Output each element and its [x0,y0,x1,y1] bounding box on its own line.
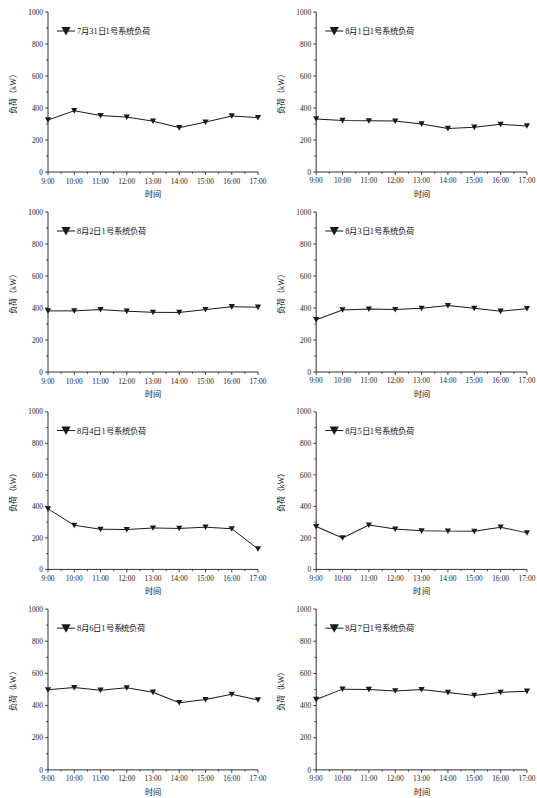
x-tick-label: 11:00 [92,774,109,783]
x-tick-label: 10:00 [66,377,83,386]
x-tick-label: 15:00 [197,574,214,583]
x-tick-label: 12:00 [118,774,135,783]
x-tick-label: 12:00 [387,574,404,583]
x-tick-label: 10:00 [334,574,351,583]
y-tick-label: 400 [32,701,43,710]
legend-label: 8月4日1号系统负荷 [77,426,146,436]
x-tick-label: 11:00 [92,377,109,386]
x-tick-label: 11:00 [361,774,378,783]
x-tick-label: 16:00 [492,774,509,783]
chart-grid: 020040060080010009:0010:0011:0012:0013:0… [0,0,537,798]
chart-panel-7: 020040060080010009:0010:0011:0012:0013:0… [0,597,268,798]
y-tick-label: 800 [32,240,43,249]
y-tick-label: 0 [39,565,43,574]
x-tick-label: 14:00 [439,774,456,783]
x-tick-label: 16:00 [492,574,509,583]
x-tick-label: 17:00 [250,177,267,186]
x-tick-label: 16:00 [223,774,240,783]
chart-svg-6: 020040060080010009:0010:0011:0012:0013:0… [268,400,537,597]
x-tick-label: 11:00 [361,377,378,386]
x-tick-label: 15:00 [197,177,214,186]
x-tick-label: 9:00 [310,377,323,386]
y-tick-label: 0 [307,368,311,377]
data-point-marker [45,117,51,123]
x-tick-label: 13:00 [413,574,430,583]
x-tick-label: 16:00 [492,377,509,386]
y-tick-label: 0 [307,168,311,177]
y-tick-label: 800 [300,40,311,49]
x-axis-title: 时间 [145,389,161,399]
y-tick-label: 600 [300,471,311,480]
y-tick-label: 200 [300,336,311,345]
chart-svg-2: 020040060080010009:0010:0011:0012:0013:0… [268,0,537,200]
y-tick-label: 600 [300,669,311,678]
x-tick-label: 10:00 [66,774,83,783]
x-tick-label: 17:00 [519,377,536,386]
y-tick-label: 800 [300,439,311,448]
x-axis-title: 时间 [413,586,429,596]
chart-panel-5: 020040060080010009:0010:0011:0012:0013:0… [0,400,268,597]
y-axis-title: 负荷（kW） [8,667,18,711]
y-tick-label: 800 [300,637,311,646]
y-tick-label: 0 [307,565,311,574]
y-tick-label: 1000 [28,208,43,217]
x-tick-label: 16:00 [223,177,240,186]
x-tick-label: 10:00 [66,177,83,186]
x-tick-label: 13:00 [145,574,162,583]
x-tick-label: 10:00 [334,177,351,186]
y-axis-title: 负荷（kW） [276,668,286,712]
x-tick-label: 14:00 [171,774,188,783]
y-tick-label: 200 [300,136,311,145]
y-tick-label: 600 [300,72,311,81]
x-tick-label: 17:00 [250,377,267,386]
x-tick-label: 9:00 [310,177,323,186]
x-tick-label: 15:00 [466,574,483,583]
x-tick-label: 9:00 [41,177,54,186]
y-tick-label: 400 [300,502,311,511]
data-point-marker [255,546,261,551]
data-point-marker [339,535,345,540]
x-tick-label: 9:00 [41,774,54,783]
x-tick-label: 17:00 [519,177,536,186]
x-tick-label: 14:00 [439,377,456,386]
y-axis-title: 负荷（kW） [276,469,286,512]
x-tick-label: 10:00 [66,574,83,583]
legend-label: 8月7日1号系统负荷 [345,623,414,633]
x-axis-title: 时间 [145,586,161,596]
y-tick-label: 0 [39,766,43,775]
x-tick-label: 11:00 [361,177,378,186]
chart-svg-5: 020040060080010009:0010:0011:0012:0013:0… [0,400,268,597]
y-tick-label: 400 [32,304,43,313]
x-tick-label: 15:00 [466,377,483,386]
x-tick-label: 12:00 [387,774,404,783]
y-tick-label: 1000 [28,8,43,17]
y-tick-label: 1000 [28,408,43,417]
x-tick-label: 13:00 [145,177,162,186]
y-tick-label: 200 [300,733,311,742]
y-tick-label: 400 [32,502,43,511]
x-tick-label: 13:00 [413,177,430,186]
y-tick-label: 200 [32,136,43,145]
x-tick-label: 12:00 [118,574,135,583]
y-tick-label: 400 [300,104,311,113]
x-axis-title: 时间 [414,787,430,797]
chart-panel-3: 020040060080010009:0010:0011:0012:0013:0… [0,200,268,400]
x-tick-label: 12:00 [118,377,135,386]
y-tick-label: 600 [32,272,43,281]
y-tick-label: 0 [39,168,43,177]
data-point-marker [176,125,182,131]
data-point-marker [313,524,319,529]
y-tick-label: 200 [32,534,43,543]
x-tick-label: 17:00 [519,774,536,783]
x-tick-label: 10:00 [334,774,351,783]
x-tick-label: 11:00 [361,574,378,583]
x-tick-label: 12:00 [387,177,404,186]
chart-panel-1: 020040060080010009:0010:0011:0012:0013:0… [0,0,268,200]
y-tick-label: 0 [307,766,311,775]
y-tick-label: 400 [300,304,311,313]
y-tick-label: 0 [39,368,43,377]
x-axis-title: 时间 [145,189,161,199]
x-tick-label: 17:00 [250,574,267,583]
chart-svg-1: 020040060080010009:0010:0011:0012:0013:0… [0,0,268,200]
x-tick-label: 17:00 [250,774,267,783]
